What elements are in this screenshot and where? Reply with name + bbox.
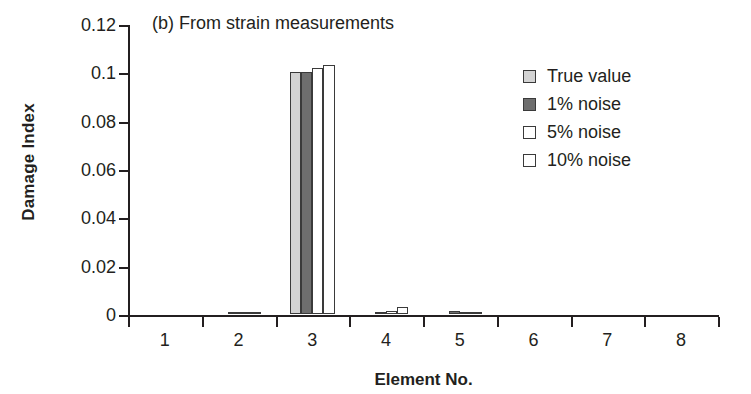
y-axis-tick-labels: 00.020.040.060.080.10.12 xyxy=(46,0,116,394)
y-axis-tickmark xyxy=(119,122,129,124)
y-axis-tickmark xyxy=(119,218,129,220)
legend-label: True value xyxy=(547,66,631,87)
x-axis-tickmark xyxy=(423,317,425,327)
legend-item: 1% noise xyxy=(523,90,733,118)
bar xyxy=(397,307,408,314)
bar xyxy=(323,65,334,314)
legend-swatch-icon xyxy=(523,70,536,83)
bar-group xyxy=(290,24,334,314)
bar xyxy=(312,68,323,314)
y-axis-tick-label: 0.12 xyxy=(52,16,116,34)
y-axis-tick-label: 0.06 xyxy=(52,161,116,179)
x-axis-tickmark xyxy=(718,317,720,327)
y-axis-tick-label: 0 xyxy=(52,306,116,324)
legend-item: 10% noise xyxy=(523,146,733,174)
x-axis-tickmark xyxy=(128,317,130,327)
chart-legend: True value1% noise5% noise10% noise xyxy=(523,62,733,174)
chart-title: (b) From strain measurements xyxy=(152,13,394,34)
bar xyxy=(375,312,386,314)
y-axis-tick-label: 0.08 xyxy=(52,113,116,131)
x-axis-tick-label: 6 xyxy=(529,330,539,351)
legend-label: 10% noise xyxy=(547,150,631,171)
bar-group xyxy=(217,24,261,314)
y-axis-tickmark xyxy=(119,267,129,269)
legend-swatch-icon xyxy=(523,126,536,139)
bar-group xyxy=(143,24,187,314)
x-axis-tickmark xyxy=(276,317,278,327)
bar xyxy=(386,311,397,314)
legend-item: True value xyxy=(523,62,733,90)
x-axis-tickmark xyxy=(497,317,499,327)
x-axis-tickmark xyxy=(349,317,351,327)
y-axis-tickmark xyxy=(119,25,129,27)
x-axis-tick-label: 2 xyxy=(234,330,244,351)
x-axis-tick-label: 5 xyxy=(455,330,465,351)
x-axis-tick-label: 8 xyxy=(676,330,686,351)
x-axis-tick-label: 7 xyxy=(602,330,612,351)
legend-label: 1% noise xyxy=(547,94,621,115)
chart-figure: Damage Index 00.020.040.060.080.10.12 12… xyxy=(0,0,751,394)
x-axis-tick-label: 3 xyxy=(307,330,317,351)
bar xyxy=(290,72,301,314)
legend-swatch-icon xyxy=(523,98,536,111)
bar xyxy=(449,311,460,314)
legend-item: 5% noise xyxy=(523,118,733,146)
legend-label: 5% noise xyxy=(547,122,621,143)
bar xyxy=(471,312,482,314)
bar xyxy=(228,312,239,314)
x-axis-tickmark xyxy=(571,317,573,327)
bar xyxy=(460,312,471,314)
y-axis-label: Damage Index xyxy=(19,72,39,252)
y-axis-tick-label: 0.04 xyxy=(52,209,116,227)
legend-swatch-icon xyxy=(523,154,536,167)
y-axis-tickmark xyxy=(119,170,129,172)
x-axis-tick-label: 4 xyxy=(381,330,391,351)
y-axis-tick-label: 0.02 xyxy=(52,258,116,276)
x-axis-label: Element No. xyxy=(128,370,719,390)
bar xyxy=(250,312,261,314)
bar-group xyxy=(438,24,482,314)
y-axis-tick-label: 0.1 xyxy=(52,64,116,82)
y-axis-tickmark xyxy=(119,73,129,75)
bar xyxy=(301,72,312,314)
bar xyxy=(239,312,250,314)
x-axis-tick-label: 1 xyxy=(160,330,170,351)
x-axis-tickmark xyxy=(202,317,204,327)
x-axis-tickmark xyxy=(644,317,646,327)
bar-group xyxy=(364,24,408,314)
